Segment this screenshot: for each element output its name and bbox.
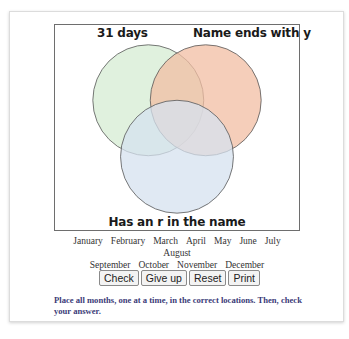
month-june[interactable]: June xyxy=(239,235,256,247)
month-may[interactable]: May xyxy=(214,235,231,247)
month-april[interactable]: April xyxy=(186,235,206,247)
circle-has-r[interactable] xyxy=(121,100,234,213)
venn-svg xyxy=(55,25,299,230)
month-bank: JanuaryFebruaryMarchAprilMayJuneJulyAugu… xyxy=(54,235,300,271)
month-february[interactable]: February xyxy=(111,235,145,247)
button-bar: Check Give up Reset Print xyxy=(99,270,260,286)
month-january[interactable]: January xyxy=(73,235,103,247)
instructions-text: Place all months, one at a time, in the … xyxy=(54,295,304,317)
print-button[interactable]: Print xyxy=(228,270,260,286)
label-31-days: 31 days xyxy=(97,26,148,40)
label-has-r: Has an r in the name xyxy=(55,215,299,229)
label-name-ends-with-y: Name ends with y xyxy=(193,26,311,40)
give-up-button[interactable]: Give up xyxy=(141,270,187,286)
month-august[interactable]: August xyxy=(163,247,190,259)
check-button[interactable]: Check xyxy=(99,270,139,286)
venn-diagram[interactable]: 31 days Name ends with y Has an r in the… xyxy=(54,24,300,231)
reset-button[interactable]: Reset xyxy=(189,270,226,286)
month-july[interactable]: July xyxy=(265,235,281,247)
month-march[interactable]: March xyxy=(153,235,178,247)
